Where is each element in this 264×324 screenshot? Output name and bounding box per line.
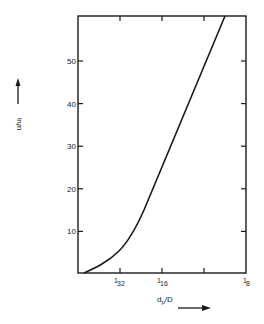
y-tick-label-10: 10 bbox=[67, 227, 76, 236]
data-curve bbox=[84, 16, 225, 273]
x-tick-den: 8 bbox=[246, 280, 250, 287]
x-tick-den: 16 bbox=[160, 280, 168, 287]
y-axis-arrow-icon bbox=[16, 78, 21, 104]
plot-frame bbox=[78, 16, 246, 273]
y-tick-label-50: 50 bbox=[67, 57, 76, 66]
x-tick-label-1-8: 1 8 bbox=[243, 277, 250, 287]
y-ticks-left bbox=[78, 61, 83, 231]
x-axis-label: dp/D bbox=[157, 295, 173, 305]
x-axis-label-rest: /D bbox=[165, 295, 173, 304]
y-tick-label-40: 40 bbox=[67, 100, 76, 109]
x-tick-label-1-32: 1 32 bbox=[114, 277, 125, 287]
y-ticks-right bbox=[241, 61, 246, 231]
x-tick-label-1-16: 1 16 bbox=[157, 277, 168, 287]
x-tick-den: 32 bbox=[117, 280, 125, 287]
x-axis-arrow-icon bbox=[178, 305, 211, 311]
y-tick-label-30: 30 bbox=[67, 142, 76, 151]
y-tick-label-20: 20 bbox=[67, 185, 76, 194]
x-ticks-bottom bbox=[120, 268, 204, 273]
y-axis-label: u/uᵣ bbox=[14, 117, 23, 130]
chart: 10 20 30 40 50 1 32 1 16 1 8 u/uᵣ dp/D bbox=[0, 0, 264, 324]
x-ticks-top bbox=[120, 16, 204, 21]
